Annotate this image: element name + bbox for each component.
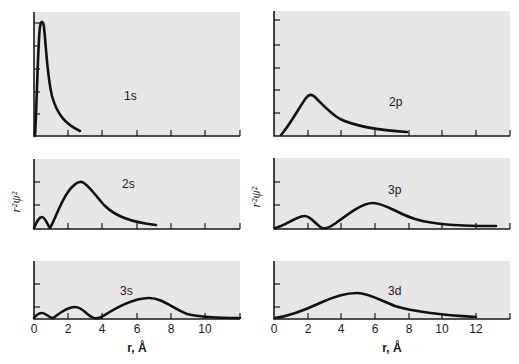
panel-label-1s: 1s xyxy=(124,89,137,103)
x-tick-label: 8 xyxy=(406,322,413,336)
orbital-radial-distribution-figure: 1s 2s xyxy=(0,0,519,364)
x-tick-label: 0 xyxy=(31,322,38,336)
panel-label-2p: 2p xyxy=(389,95,403,109)
left-x-axis-label: r, Å xyxy=(127,340,147,355)
panel-2s-background xyxy=(34,159,240,229)
left-x-tick-labels: 0 2 4 6 8 10 xyxy=(31,322,212,336)
x-tick-label: 2 xyxy=(305,322,312,336)
panel-1s: 1s xyxy=(34,12,240,136)
panel-label-3s: 3s xyxy=(120,284,133,298)
panel-3p: 3p xyxy=(274,158,510,229)
x-tick-label: 4 xyxy=(99,322,106,336)
left-y-axis-label: r²ψ² xyxy=(8,190,23,212)
right-y-axis-label: r²ψ² xyxy=(248,185,263,207)
right-x-axis-label: r, Å xyxy=(382,340,402,355)
x-tick-label: 6 xyxy=(134,322,141,336)
x-tick-label: 0 xyxy=(271,322,278,336)
panel-3d: 3d xyxy=(274,261,510,319)
right-x-tick-labels: 0 2 4 6 8 10 12 xyxy=(271,322,483,336)
x-tick-label: 4 xyxy=(338,322,345,336)
x-tick-label: 8 xyxy=(168,322,175,336)
x-tick-label: 10 xyxy=(198,322,212,336)
panel-1s-background xyxy=(34,12,240,136)
panel-label-2s: 2s xyxy=(122,177,135,191)
panel-2s: 2s xyxy=(34,159,240,229)
x-tick-label: 6 xyxy=(372,322,379,336)
panel-label-3d: 3d xyxy=(388,284,401,298)
x-tick-label: 12 xyxy=(469,322,483,336)
panel-label-3p: 3p xyxy=(388,183,402,197)
panel-2p-background xyxy=(274,11,510,136)
x-tick-label: 2 xyxy=(65,322,72,336)
panel-2p: 2p xyxy=(274,11,510,136)
panel-3s: 3s xyxy=(34,261,240,319)
x-tick-label: 10 xyxy=(435,322,449,336)
